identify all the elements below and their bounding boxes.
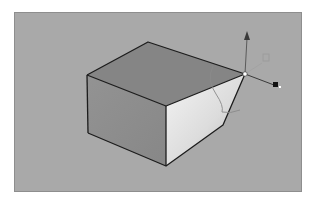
selected-vertex[interactable] xyxy=(243,72,247,76)
x-axis-tip xyxy=(279,86,281,88)
scene xyxy=(0,0,310,209)
y-axis-arrow-icon[interactable] xyxy=(244,31,250,40)
x-axis-line[interactable] xyxy=(245,74,274,85)
plane-handle-icon[interactable] xyxy=(263,54,269,61)
x-axis-handle-icon[interactable] xyxy=(273,82,278,87)
y-axis-line[interactable] xyxy=(245,38,247,74)
z-axis-faint-line xyxy=(245,63,262,74)
